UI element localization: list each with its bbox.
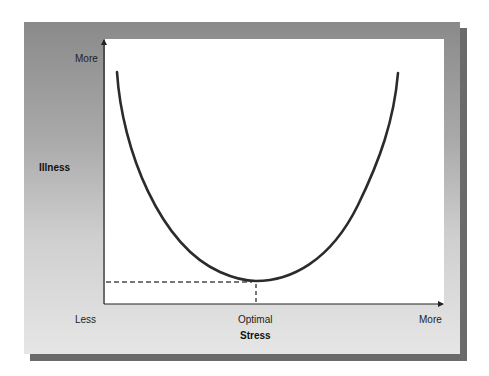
x-axis-title: Stress	[240, 330, 271, 341]
x-tick-less: Less	[75, 314, 96, 325]
x-tick-more: More	[419, 314, 442, 325]
y-tick-more: More	[75, 53, 98, 64]
x-tick-optimal: Optimal	[238, 314, 272, 325]
y-axis-title: Illness	[39, 162, 70, 173]
illness-stress-curve	[117, 72, 398, 281]
